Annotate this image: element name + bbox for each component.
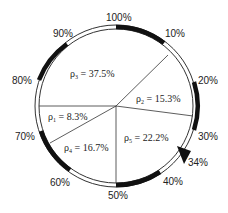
label-40: 40% bbox=[163, 176, 183, 187]
sector-rho2: ρ2 = 15.3% bbox=[136, 93, 180, 105]
sector-rho4: ρ4 = 16.7% bbox=[64, 142, 108, 154]
sector-rho5: ρ5 = 22.2% bbox=[124, 132, 168, 144]
label-30: 30% bbox=[198, 131, 218, 142]
label-10: 10% bbox=[165, 28, 185, 39]
label-34: 34% bbox=[188, 157, 208, 168]
label-50: 50% bbox=[108, 190, 128, 201]
sector-rho1: ρ1 = 8.3% bbox=[48, 111, 87, 123]
label-100: 100% bbox=[106, 12, 132, 23]
label-80: 80% bbox=[12, 75, 32, 86]
label-90: 90% bbox=[53, 28, 73, 39]
sector-rho3: ρ3 = 37.5% bbox=[70, 68, 114, 80]
label-70: 70% bbox=[15, 131, 35, 142]
sector-labels: ρ3 = 37.5% ρ2 = 15.3% ρ1 = 8.3% ρ4 = 16.… bbox=[48, 68, 180, 154]
progress-ring-diagram: 100% 10% 20% 30% 34% 40% 50% 60% 70% 80%… bbox=[0, 0, 228, 213]
label-20: 20% bbox=[198, 75, 218, 86]
label-60: 60% bbox=[50, 177, 70, 188]
